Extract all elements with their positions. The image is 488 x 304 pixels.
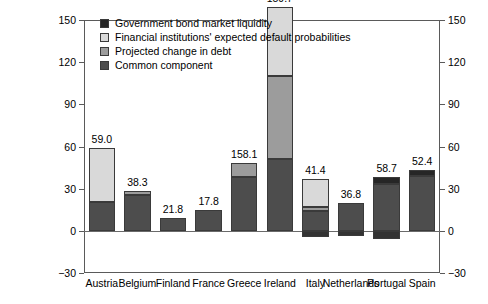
x-axis-label-greece: Greece	[227, 278, 261, 289]
y-axis-label-right: 0	[448, 226, 454, 237]
bar-segment[interactable]	[373, 177, 399, 185]
bar-segment-negative[interactable]	[373, 231, 399, 239]
bar-segment[interactable]	[302, 179, 328, 207]
bar-segment[interactable]	[373, 184, 399, 230]
y-axis-label-left: 120	[58, 57, 76, 68]
legend: Government bond market liquidityFinancia…	[100, 18, 350, 71]
legend-swatch-icon	[100, 33, 109, 42]
legend-item[interactable]: Common component	[100, 60, 350, 71]
y-axis-label-left: 0	[70, 226, 76, 237]
y-axis-label-right: 30	[448, 184, 460, 195]
bar-value-label: 58.7	[376, 163, 396, 174]
y-axis-label-right: 150	[448, 15, 466, 26]
bar-segment[interactable]	[302, 211, 328, 231]
bar-value-label: 36.8	[341, 189, 361, 200]
x-axis-label-spain: Spain	[409, 278, 436, 289]
y-tick-right	[440, 189, 445, 190]
legend-item-label: Financial institutions' expected default…	[115, 32, 350, 43]
y-tick-right	[440, 231, 445, 232]
bar-value-label: 59.0	[92, 134, 112, 145]
bar-segment[interactable]	[267, 159, 293, 231]
bar-segment[interactable]	[89, 202, 115, 231]
y-axis-label-left: 60	[64, 142, 76, 153]
y-tick-right	[440, 20, 445, 21]
bar-segment[interactable]	[338, 203, 364, 230]
bar-segment[interactable]	[302, 207, 328, 211]
bar-value-label: 52.4	[412, 156, 432, 167]
bar-value-label: 38.3	[127, 177, 147, 188]
y-axis-label-right: 60	[448, 142, 460, 153]
legend-swatch-icon	[100, 19, 109, 28]
bar-chart: 1501209060300−30 1501209060300−30 59.038…	[0, 0, 488, 304]
bar-group[interactable]: 58.7	[373, 20, 399, 273]
legend-item[interactable]: Projected change in debt	[100, 46, 350, 57]
y-axis-label-left: 90	[64, 99, 76, 110]
legend-item-label: Projected change in debt	[115, 46, 231, 57]
legend-swatch-icon	[100, 47, 109, 56]
bar-segment[interactable]	[231, 163, 257, 176]
bar-segment[interactable]	[231, 177, 257, 231]
y-tick-right	[440, 104, 445, 105]
y-axis-label-right: 120	[448, 57, 466, 68]
bar-segment[interactable]	[124, 195, 150, 231]
bar-value-label: 159.7	[267, 0, 293, 3]
bar-value-label: 158.1	[231, 149, 257, 160]
x-axis-label-portugal: Portugal	[367, 278, 406, 289]
y-axis-label-left: −30	[58, 268, 76, 279]
x-axis-label-france: France	[192, 278, 225, 289]
bar-segment-negative[interactable]	[338, 231, 364, 237]
bar-value-label: 21.8	[163, 204, 183, 215]
legend-item-label: Government bond market liquidity	[115, 18, 272, 29]
bar-group[interactable]: 52.4	[409, 20, 435, 273]
legend-item[interactable]: Government bond market liquidity	[100, 18, 350, 29]
legend-item-label: Common component	[115, 60, 212, 71]
y-axis-label-left: 150	[58, 15, 76, 26]
bar-segment[interactable]	[124, 191, 150, 195]
bar-segment[interactable]	[267, 76, 293, 160]
legend-item[interactable]: Financial institutions' expected default…	[100, 32, 350, 43]
y-tick-right	[440, 273, 445, 274]
y-axis-label-right: −30	[448, 268, 466, 279]
y-tick-left	[79, 273, 84, 274]
legend-swatch-icon	[100, 61, 109, 70]
x-axis-label-ireland: Ireland	[264, 278, 296, 289]
bar-segment[interactable]	[195, 210, 221, 230]
bar-segment[interactable]	[160, 218, 186, 231]
bar-segment[interactable]	[409, 176, 435, 231]
bar-segment[interactable]	[409, 170, 435, 176]
bar-segment[interactable]	[89, 148, 115, 202]
bar-value-label: 17.8	[198, 196, 218, 207]
y-axis-label-right: 90	[448, 99, 460, 110]
x-axis-label-belgium: Belgium	[118, 278, 156, 289]
y-tick-right	[440, 147, 445, 148]
x-axis-label-austria: Austria	[85, 278, 118, 289]
y-axis-label-left: 30	[64, 184, 76, 195]
x-axis-label-finland: Finland	[156, 278, 190, 289]
y-tick-right	[440, 62, 445, 63]
bar-value-label: 41.4	[305, 165, 325, 176]
bar-segment-negative[interactable]	[302, 231, 328, 237]
